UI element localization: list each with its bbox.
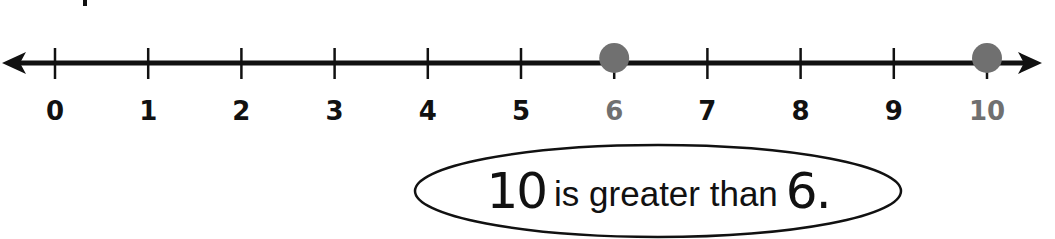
tick-label-10: 10 (967, 96, 1007, 126)
caption-bubble: 10 is greater than 6. (412, 143, 904, 239)
number-line-figure: 012345678910 10 is greater than 6. (0, 0, 1055, 239)
right-number: 6. (786, 162, 830, 220)
comparison-phrase: is greater than (554, 174, 778, 214)
tick-label-8: 8 (781, 96, 821, 126)
point-marker-10 (972, 43, 1002, 73)
tick-label-2: 2 (221, 96, 261, 126)
tick-label-5: 5 (501, 96, 541, 126)
comparison-statement: 10 is greater than 6. (412, 143, 904, 239)
tick-label-1: 1 (128, 96, 168, 126)
tick-label-4: 4 (408, 96, 448, 126)
tick-label-3: 3 (315, 96, 355, 126)
left-number: 10 (486, 162, 546, 220)
point-marker-6 (599, 43, 629, 73)
tick-label-9: 9 (874, 96, 914, 126)
tick-label-0: 0 (35, 96, 75, 126)
tick-label-6: 6 (594, 96, 634, 126)
tick-label-7: 7 (687, 96, 727, 126)
